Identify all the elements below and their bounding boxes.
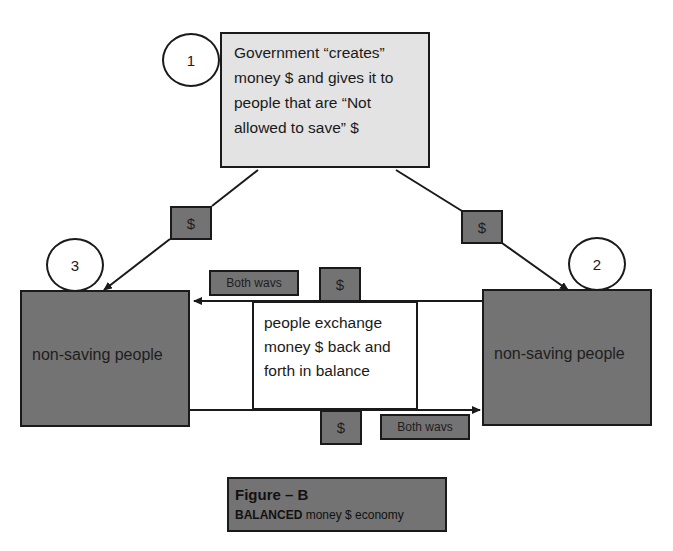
figure-caption: Figure – B BALANCED money $ economy xyxy=(227,477,447,532)
group-label: non-saving people xyxy=(494,345,625,363)
both-ways-label-bottom: Both wavs xyxy=(380,414,470,440)
caption-subtitle-bold: BALANCED xyxy=(235,508,302,522)
government-line-1: Government “creates” xyxy=(234,40,418,65)
dollar-box-bottom: $ xyxy=(320,410,362,445)
step-1-number: 1 xyxy=(187,52,195,69)
exchange-line-3: forth in balance xyxy=(264,359,408,383)
both-ways-text: Both wavs xyxy=(226,276,281,290)
caption-subtitle-rest: money $ economy xyxy=(302,508,403,522)
both-ways-label-top: Both wavs xyxy=(209,270,299,296)
non-saving-people-left: non-saving people xyxy=(20,290,190,427)
step-3-number: 3 xyxy=(71,257,79,274)
government-box: Government “creates” money $ and gives i… xyxy=(220,32,430,168)
exchange-box: people exchange money $ back and forth i… xyxy=(252,301,418,410)
dollar-box-right: $ xyxy=(461,210,503,244)
step-3-badge: 3 xyxy=(46,238,104,292)
dollar-sign: $ xyxy=(187,215,195,232)
step-1-badge: 1 xyxy=(162,33,220,87)
exchange-line-1: people exchange xyxy=(264,311,408,335)
caption-title: Figure – B xyxy=(235,484,439,506)
exchange-line-2: money $ back and xyxy=(264,335,408,359)
dollar-box-top: $ xyxy=(319,267,361,302)
government-line-4: allowed to save” $ xyxy=(234,115,418,140)
step-2-badge: 2 xyxy=(568,237,626,291)
caption-subtitle: BALANCED money $ economy xyxy=(235,506,439,524)
government-line-2: money $ and gives it to xyxy=(234,65,418,90)
dollar-sign: $ xyxy=(337,419,345,436)
step-2-number: 2 xyxy=(593,256,601,273)
non-saving-people-right: non-saving people xyxy=(482,289,652,426)
dollar-sign: $ xyxy=(336,276,344,293)
group-label: non-saving people xyxy=(32,346,163,364)
both-ways-text: Both wavs xyxy=(397,420,452,434)
dollar-box-left: $ xyxy=(170,206,212,240)
government-line-3: people that are “Not xyxy=(234,90,418,115)
dollar-sign: $ xyxy=(478,219,486,236)
